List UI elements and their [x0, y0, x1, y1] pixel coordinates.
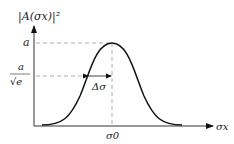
- width-label: Δσ: [91, 81, 107, 92]
- x-axis-label: σx: [216, 121, 229, 132]
- gaussian-curve: [42, 43, 182, 125]
- gaussian-diagram: |A(σx)|² a a √e Δσ σ0 σx: [0, 0, 234, 144]
- peak-label: a: [23, 36, 30, 49]
- half-level-denominator: √e: [10, 76, 22, 87]
- y-axis-label: |A(σx)|²: [18, 10, 60, 24]
- half-level-numerator: a: [18, 61, 24, 72]
- center-label: σ0: [106, 130, 120, 141]
